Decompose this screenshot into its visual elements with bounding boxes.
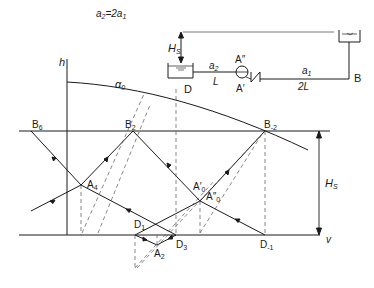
point-b6: B6: [32, 119, 43, 131]
pipe-right-speed: a1: [302, 65, 312, 77]
line-b2-a0pp: [133, 131, 200, 201]
point-a4: A4: [87, 179, 98, 191]
point-a0-double-prime: A″0: [206, 191, 220, 203]
pipeline-schematic: [168, 30, 360, 82]
v-axis-label: v: [326, 234, 332, 245]
pipe-right-length: 2L: [297, 81, 309, 92]
lower-reservoir-icon: [168, 63, 193, 78]
line-a4-left: [31, 185, 81, 211]
point-dm1: D-1: [260, 239, 274, 251]
head-arrow-plot: [317, 131, 322, 235]
plot-head-label: HS: [325, 177, 338, 190]
h-axis-label: h: [59, 56, 65, 68]
valve-icon: [251, 72, 260, 82]
formula-a2-eq-2a1: a2=2a1: [96, 8, 126, 20]
construction-lines: [81, 89, 265, 270]
water-hammer-diagram: a2=2a1 HS a2: [0, 0, 374, 288]
characteristics-plot: [19, 59, 330, 245]
pipe-left-length: L: [213, 76, 219, 87]
pump-top-label: A″: [235, 54, 246, 65]
upper-reservoir-icon: [339, 30, 360, 42]
end-label-b: B: [354, 72, 361, 84]
point-b2: B2: [125, 119, 136, 131]
pipe-left-speed: a2: [209, 60, 219, 72]
schematic-head-label: HS: [168, 42, 181, 55]
point-bm2: B-2: [264, 119, 277, 131]
curve-label-alpha0: α0: [115, 78, 125, 91]
valve-bottom-label: A′: [236, 83, 245, 94]
point-a2: A2: [154, 248, 165, 260]
point-d1: D1: [134, 219, 145, 231]
point-d3: D3: [176, 239, 187, 251]
point-a0-prime: A′0: [193, 181, 206, 193]
svg-text:a2=2a1: a2=2a1: [96, 8, 126, 20]
lower-reservoir-label: D: [184, 83, 192, 95]
